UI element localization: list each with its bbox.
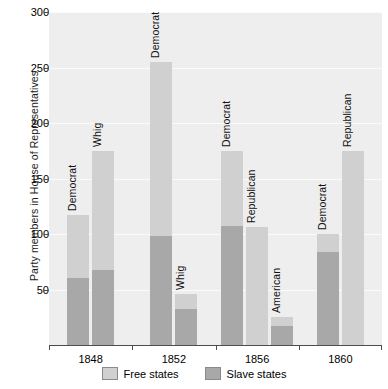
bar-label: Democrat bbox=[220, 100, 232, 146]
bar-segment-free-states bbox=[175, 294, 197, 310]
bar bbox=[317, 234, 339, 345]
x-axis-tick-label: 1848 bbox=[78, 353, 102, 365]
bar-label: Republican bbox=[245, 170, 257, 224]
bar-segment-free-states bbox=[271, 317, 293, 326]
bar-segment-slave-states bbox=[92, 270, 114, 345]
legend-label: Slave states bbox=[227, 368, 287, 380]
bar bbox=[271, 317, 293, 345]
bar-label: American bbox=[270, 268, 282, 313]
bar-segment-free-states bbox=[150, 62, 172, 236]
y-axis-tick-mark bbox=[44, 290, 49, 291]
gridline bbox=[49, 12, 382, 13]
bar bbox=[150, 62, 172, 345]
bar-label: Democrat bbox=[149, 12, 161, 58]
legend-swatch bbox=[102, 367, 118, 380]
bar-segment-slave-states bbox=[67, 278, 89, 345]
x-axis-tick-label: 1852 bbox=[162, 353, 186, 365]
x-axis-tick-label: 1856 bbox=[245, 353, 269, 365]
bar-label: Republican bbox=[341, 93, 353, 147]
bar bbox=[221, 151, 243, 345]
gridline bbox=[49, 68, 382, 69]
x-axis-tick-mark bbox=[381, 345, 382, 350]
bar-segment-free-states bbox=[221, 151, 243, 226]
bar-segment-free-states bbox=[67, 215, 89, 278]
bar-segment-slave-states bbox=[271, 326, 293, 345]
x-axis-tick-mark bbox=[49, 345, 50, 350]
bar-segment-slave-states bbox=[317, 252, 339, 345]
bar-segment-free-states bbox=[246, 227, 268, 345]
bar bbox=[92, 151, 114, 345]
bar-segment-free-states bbox=[317, 234, 339, 252]
bar bbox=[246, 227, 268, 345]
bar bbox=[67, 215, 89, 345]
bar-label: Democrat bbox=[66, 165, 78, 211]
plot-area: DemocratWhigDemocratWhigDemocratRepublic… bbox=[49, 12, 382, 345]
bar-segment-free-states bbox=[92, 151, 114, 270]
legend-label: Free states bbox=[124, 368, 179, 380]
bar-chart: Party members in House of Representative… bbox=[0, 0, 388, 389]
legend-item: Free states bbox=[102, 367, 179, 380]
x-axis-tick-mark bbox=[216, 345, 217, 350]
bar-label: Democrat bbox=[316, 184, 328, 230]
y-axis-tick-mark bbox=[44, 12, 49, 13]
x-axis-tick-mark bbox=[299, 345, 300, 350]
legend-item: Slave states bbox=[205, 367, 287, 380]
legend-swatch bbox=[205, 367, 221, 380]
bar-label: Whig bbox=[91, 122, 103, 146]
bar-segment-slave-states bbox=[221, 226, 243, 345]
legend: Free statesSlave states bbox=[0, 367, 388, 380]
y-axis-tick-mark bbox=[44, 234, 49, 235]
y-axis-tick-mark bbox=[44, 179, 49, 180]
y-axis-tick-mark bbox=[44, 68, 49, 69]
bar-segment-slave-states bbox=[175, 309, 197, 345]
bar-segment-slave-states bbox=[150, 236, 172, 345]
bar-label: Whig bbox=[174, 266, 186, 290]
bar-segment-free-states bbox=[342, 151, 364, 345]
y-axis-tick-mark bbox=[44, 123, 49, 124]
x-axis-tick-label: 1860 bbox=[328, 353, 352, 365]
x-axis-tick-mark bbox=[132, 345, 133, 350]
bar bbox=[342, 151, 364, 345]
bar bbox=[175, 294, 197, 345]
